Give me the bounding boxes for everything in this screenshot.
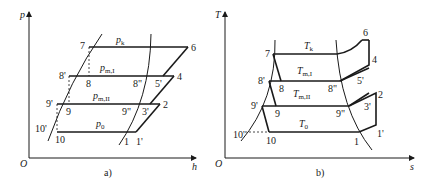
point-4: 4: [177, 71, 182, 82]
point-1p: 1': [377, 128, 384, 139]
point-10p: 10': [233, 129, 245, 140]
point-5p: 5': [357, 75, 364, 86]
caption-a: a): [104, 167, 112, 179]
point-2: 2: [378, 89, 383, 100]
point-3p: 3': [364, 101, 371, 112]
h-axis-label: h: [192, 161, 197, 172]
label-tm2: Tm,II: [293, 88, 311, 101]
point-8p: 8': [258, 75, 265, 86]
label-pk: pk: [115, 34, 125, 47]
line-5p: [340, 68, 369, 81]
label-t0: T0: [299, 118, 309, 131]
label-tk: Tk: [304, 40, 314, 53]
caption-b: b): [316, 167, 324, 179]
point-10: 10: [266, 135, 276, 146]
point-10: 10: [55, 134, 65, 145]
point-1p: 1': [136, 136, 143, 147]
label-pm1: pm,I: [99, 62, 115, 75]
point-8: 8: [86, 78, 91, 89]
point-8pp: 8": [328, 83, 337, 94]
point-1: 1: [354, 136, 359, 147]
compression-1p-2-3p: [349, 93, 376, 132]
saturated-liquid-line: [48, 34, 102, 141]
point-9p: 9': [251, 100, 258, 111]
throttle-8p-9: [269, 81, 276, 106]
point-9: 9: [275, 108, 280, 119]
throttle-9p-10: [262, 106, 269, 132]
origin-label: O: [215, 158, 222, 169]
panel-a-ph-diagram: p h O pk pm,I pm,II p0 7 6 8' 8 8" 5' 4 …: [19, 9, 197, 179]
point-8: 8: [279, 83, 284, 94]
throttle-7-8: [273, 54, 281, 81]
label-tm1: Tm,I: [297, 65, 313, 78]
panel-b-ts-diagram: T s O Tk Tm,I Tm,II T0 6 7 4 8' 8 8" 5' …: [215, 9, 414, 179]
diagram-canvas: p h O pk pm,I pm,II p0 7 6 8' 8 8" 5' 4 …: [0, 0, 429, 191]
origin-label: O: [20, 158, 27, 169]
point-9pp: 9": [122, 106, 131, 117]
point-7: 7: [265, 48, 270, 59]
p-axis-label: p: [19, 9, 25, 20]
point-10p: 10': [35, 123, 47, 134]
point-8p: 8': [59, 70, 66, 81]
point-9: 9: [66, 106, 71, 117]
point-6: 6: [363, 27, 368, 38]
superheat-to-6: [337, 40, 362, 54]
compression-5p-6: [163, 47, 188, 76]
s-axis-label: s: [410, 161, 414, 172]
point-1: 1: [124, 136, 129, 147]
point-5p: 5': [155, 78, 162, 89]
label-p0: p0: [95, 118, 105, 131]
point-9p: 9': [46, 98, 53, 109]
point-3p: 3': [142, 106, 149, 117]
saturated-vapor-line: [119, 34, 151, 145]
point-2: 2: [163, 99, 168, 110]
compression-3p-4: [150, 76, 174, 104]
point-9pp: 9": [336, 108, 345, 119]
point-7: 7: [80, 40, 85, 51]
point-4: 4: [372, 54, 377, 65]
label-pm2: pm,II: [92, 90, 111, 103]
point-6: 6: [191, 42, 196, 53]
t-axis-label: T: [215, 9, 222, 20]
point-8pp: 8": [133, 78, 142, 89]
